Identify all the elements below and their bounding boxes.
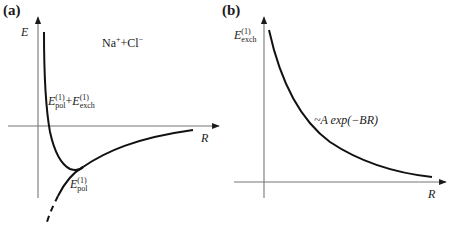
pol-subscript: pol	[55, 102, 65, 110]
sodium-symbol: Na	[102, 36, 116, 50]
panel-b-axes	[234, 17, 446, 198]
energy-symbol: E	[234, 28, 241, 42]
total-curve-label: E(1)pol+E(1)exch	[48, 94, 95, 110]
chlorine-charge: −	[139, 35, 144, 44]
exch-subscript: exch	[241, 36, 256, 44]
chlorine-symbol: Cl	[127, 36, 138, 50]
system-label: Na++Cl−	[102, 36, 143, 49]
exch-subscript: exch	[80, 102, 95, 110]
pol-subscript: pol	[77, 185, 87, 193]
exch-curve-label: ~A exp(−BR)	[314, 114, 378, 126]
panel-a-label: (a)	[3, 2, 21, 19]
panel-a-y-axis-label: E	[21, 26, 28, 38]
energy-symbol: E	[70, 177, 77, 191]
pol-curve-label: E(1)pol	[70, 177, 88, 193]
energy-symbol: E	[48, 94, 55, 108]
panel-b-x-axis-label: R	[428, 188, 435, 200]
panel-b-label: (b)	[222, 2, 240, 19]
panel-b-exch-curve	[269, 30, 432, 177]
energy-symbol: E	[72, 94, 79, 108]
figure-canvas	[0, 0, 449, 226]
panel-a-x-axis-label: R	[201, 132, 208, 144]
panel-b-y-axis-label: E(1)exch	[234, 28, 256, 44]
panel-a-pol-curve-dashed	[47, 196, 58, 222]
